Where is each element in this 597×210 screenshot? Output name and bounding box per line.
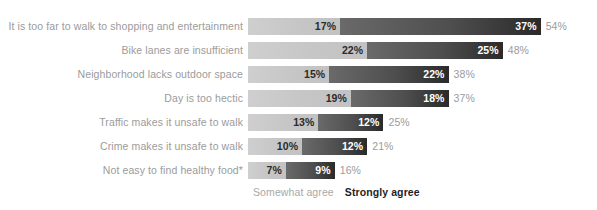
- table-row: Bike lanes are insufficient 22% 25% 48%: [0, 38, 597, 62]
- bar-value-strongly-3: 18%: [423, 92, 444, 104]
- table-row: Crime makes it unsafe to walk 10% 12% 21…: [0, 134, 597, 158]
- bar-segment-strongly-4[interactable]: 12%: [318, 114, 383, 131]
- bar-total-0: 54%: [541, 18, 567, 35]
- bar-group-2: 15% 22% 38%: [248, 66, 597, 83]
- bar-total-3: 37%: [449, 90, 475, 107]
- bar-segment-somewhat-4[interactable]: 13%: [248, 114, 318, 131]
- bar-value-strongly-4: 12%: [358, 116, 379, 128]
- bar-total-1: 48%: [503, 42, 529, 59]
- table-row: Day is too hectic 19% 18% 37%: [0, 86, 597, 110]
- bar-value-somewhat-4: 13%: [293, 116, 314, 128]
- bar-segment-strongly-2[interactable]: 22%: [329, 66, 448, 83]
- bar-group-5: 10% 12% 21%: [248, 138, 597, 155]
- category-label-3: Day is too hectic: [0, 90, 248, 107]
- category-label-5: Crime makes it unsafe to walk: [0, 138, 248, 155]
- bar-segment-strongly-0[interactable]: 37%: [340, 18, 541, 35]
- bar-value-somewhat-2: 15%: [304, 68, 325, 80]
- bar-total-5: 21%: [367, 138, 393, 155]
- bar-group-1: 22% 25% 48%: [248, 42, 597, 59]
- bar-segment-strongly-6[interactable]: 9%: [286, 162, 335, 179]
- bar-segment-somewhat-3[interactable]: 19%: [248, 90, 351, 107]
- bar-segment-somewhat-2[interactable]: 15%: [248, 66, 329, 83]
- category-label-2: Neighborhood lacks outdoor space: [0, 66, 248, 83]
- bar-segment-strongly-5[interactable]: 12%: [302, 138, 367, 155]
- category-label-4: Traffic makes it unsafe to walk: [0, 114, 248, 131]
- legend-item-somewhat-agree[interactable]: Somewhat agree: [253, 186, 334, 198]
- bar-value-strongly-2: 22%: [423, 68, 444, 80]
- chart-legend: Somewhat agree Strongly agree: [253, 186, 420, 198]
- bar-total-4: 25%: [383, 114, 409, 131]
- table-row: Neighborhood lacks outdoor space 15% 22%…: [0, 62, 597, 86]
- bar-value-somewhat-3: 19%: [326, 92, 347, 104]
- bar-total-2: 38%: [449, 66, 475, 83]
- category-label-0: It is too far to walk to shopping and en…: [0, 18, 248, 35]
- bar-value-somewhat-1: 22%: [342, 44, 363, 56]
- bar-total-6: 16%: [335, 162, 361, 179]
- bar-group-3: 19% 18% 37%: [248, 90, 597, 107]
- table-row: Traffic makes it unsafe to walk 13% 12% …: [0, 110, 597, 134]
- bar-value-strongly-0: 37%: [515, 20, 536, 32]
- category-label-6: Not easy to find healthy food*: [0, 162, 248, 179]
- bar-value-somewhat-5: 10%: [277, 140, 298, 152]
- bar-group-0: 17% 37% 54%: [248, 18, 597, 35]
- bar-group-6: 7% 9% 16%: [248, 162, 597, 179]
- bar-value-strongly-6: 9%: [315, 164, 330, 176]
- bar-segment-somewhat-5[interactable]: 10%: [248, 138, 302, 155]
- bar-group-4: 13% 12% 25%: [248, 114, 597, 131]
- table-row: Not easy to find healthy food* 7% 9% 16%: [0, 158, 597, 182]
- bar-segment-somewhat-1[interactable]: 22%: [248, 42, 367, 59]
- stacked-bar-chart: It is too far to walk to shopping and en…: [0, 0, 597, 210]
- category-label-1: Bike lanes are insufficient: [0, 42, 248, 59]
- bar-segment-strongly-1[interactable]: 25%: [367, 42, 503, 59]
- bar-value-somewhat-6: 7%: [267, 164, 282, 176]
- table-row: It is too far to walk to shopping and en…: [0, 14, 597, 38]
- bar-value-strongly-5: 12%: [342, 140, 363, 152]
- bar-value-somewhat-0: 17%: [315, 20, 336, 32]
- bar-segment-somewhat-6[interactable]: 7%: [248, 162, 286, 179]
- legend-item-strongly-agree[interactable]: Strongly agree: [345, 186, 420, 198]
- bar-segment-somewhat-0[interactable]: 17%: [248, 18, 340, 35]
- bar-value-strongly-1: 25%: [477, 44, 498, 56]
- bar-segment-strongly-3[interactable]: 18%: [351, 90, 449, 107]
- chart-rows: It is too far to walk to shopping and en…: [0, 14, 597, 182]
